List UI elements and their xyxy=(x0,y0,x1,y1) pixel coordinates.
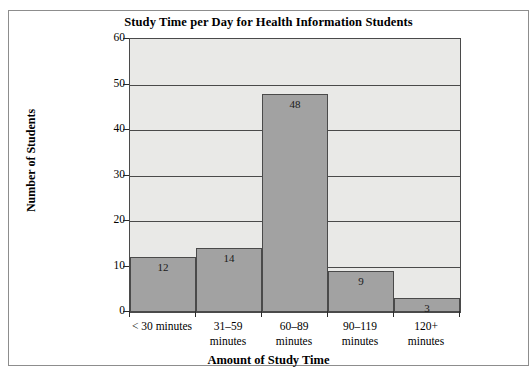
bar-value-label: 3 xyxy=(395,302,459,314)
x-tick-mark xyxy=(459,311,460,317)
x-axis-title: Amount of Study Time xyxy=(9,353,528,368)
y-axis-title: Number of Students xyxy=(24,86,39,236)
figure-frame: Study Time per Day for Health Informatio… xyxy=(8,10,529,366)
y-tick-mark xyxy=(123,220,129,221)
bar-series: 12144893 xyxy=(130,39,460,312)
bar-value-label: 14 xyxy=(197,252,261,264)
bar-value-label: 48 xyxy=(263,98,327,110)
bar: 14 xyxy=(196,248,262,312)
y-tick-mark xyxy=(123,266,129,267)
bar: 3 xyxy=(394,298,460,312)
x-tick-label-line: 31–59 xyxy=(195,319,261,334)
y-axis-tick-labels: 0102030405060 xyxy=(99,11,125,367)
y-tick-mark xyxy=(123,129,129,130)
chart-title: Study Time per Day for Health Informatio… xyxy=(9,15,528,30)
x-tick-label-line: < 30 minutes xyxy=(129,319,195,334)
bar: 9 xyxy=(328,271,394,312)
bar: 12 xyxy=(130,257,196,312)
bar: 48 xyxy=(262,94,328,312)
x-tick-label-line: minutes xyxy=(195,334,261,349)
y-tick-mark xyxy=(123,175,129,176)
x-tick-label-line: 90–119 xyxy=(327,319,393,334)
x-tick-label-line: minutes xyxy=(393,334,459,349)
bar-value-label: 9 xyxy=(329,275,393,287)
x-tick-label-line: 120+ xyxy=(393,319,459,334)
bar-value-label: 12 xyxy=(131,261,195,273)
y-tick-mark xyxy=(123,84,129,85)
x-tick-label-line: minutes xyxy=(261,334,327,349)
y-tick-mark xyxy=(123,38,129,39)
x-tick-label-line: minutes xyxy=(327,334,393,349)
x-tick-label-line: 60–89 xyxy=(261,319,327,334)
plot-area: 12144893 xyxy=(129,38,461,313)
